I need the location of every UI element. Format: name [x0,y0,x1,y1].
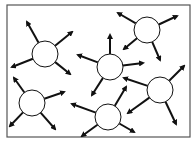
arrow-icon [44,92,64,99]
arrow-icon [72,104,96,113]
arrow-icon [92,78,103,95]
node-E [10,78,64,129]
particle-circle [95,104,121,130]
arrow-icon [159,16,177,25]
arrow-icon [55,62,70,74]
arrow-icon [119,124,134,133]
arrow-icon [118,13,136,23]
node-F [72,87,134,136]
particle-circle [19,90,45,116]
arrow-icon [27,22,39,43]
arrow-icon [123,63,143,65]
arrow-icon [124,38,137,49]
arrow-icon [152,42,160,60]
arrow-icon [169,66,184,81]
node-B [118,13,177,60]
particle-circle [97,54,123,80]
particle-diagram [0,0,195,141]
particle-circle [147,77,173,103]
arrow-icon [128,98,149,113]
arrow-icon [78,55,98,62]
particle-circle [32,41,58,67]
node-A [12,22,72,74]
node-C [78,35,143,95]
arrow-icon [10,112,23,126]
arrow-icon [124,78,148,86]
particle-circle [134,17,160,43]
node-D [124,66,184,124]
arrow-icon [14,78,24,93]
arrow-icon [82,125,98,136]
nodes-group [10,13,184,136]
arrow-icon [55,32,72,46]
arrow-icon [12,59,33,67]
arrow-icon [41,113,55,129]
arrow-icon [166,102,177,124]
arrow-icon [115,87,126,106]
